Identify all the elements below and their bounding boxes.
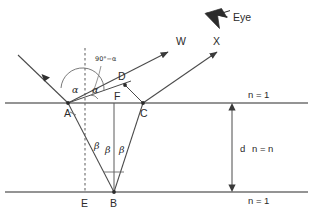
point-label-c: C <box>140 107 148 119</box>
ray-label-x: X <box>213 35 220 47</box>
ray-diagram-canvas: A B C D E F W X α α 90°−α β β β n = 1 d … <box>0 0 313 216</box>
point-label-b: B <box>110 197 117 209</box>
film-thickness-label: d <box>240 143 245 154</box>
refractive-index-bottom-label: n = 1 <box>248 195 269 206</box>
point-label-a: A <box>64 107 71 119</box>
wavefront-segment-dc <box>125 85 143 103</box>
angle-label-alpha-incident: α <box>72 84 79 95</box>
point-dot-d <box>123 83 127 87</box>
angle-label-alpha-reflected: α <box>92 84 99 95</box>
point-label-d: D <box>118 70 126 82</box>
angle-label-beta-right: β <box>118 144 125 155</box>
refractive-index-top-label: n = 1 <box>248 89 269 100</box>
ray-label-w: W <box>176 35 186 47</box>
angle-label-ninety-minus-alpha: 90°−α <box>95 55 116 63</box>
point-dot-b <box>112 190 116 194</box>
angle-label-beta-left: β <box>93 140 100 151</box>
thickness-dimension-arrow <box>228 103 235 192</box>
angle-label-beta-middle: β <box>104 144 111 155</box>
point-dot-c <box>141 101 145 105</box>
eye-arrow-icon <box>205 9 230 29</box>
incident-ray <box>18 55 68 103</box>
eye-label: Eye <box>233 11 251 23</box>
incident-ray-arrowhead <box>42 74 51 82</box>
ray-diagram-figure: A B C D E F W X α α 90°−α β β β n = 1 d … <box>0 0 313 216</box>
point-dot-a <box>66 101 70 105</box>
point-label-f: F <box>114 90 120 102</box>
refractive-index-film-label: n = n <box>252 143 273 154</box>
point-label-e: E <box>81 197 88 209</box>
